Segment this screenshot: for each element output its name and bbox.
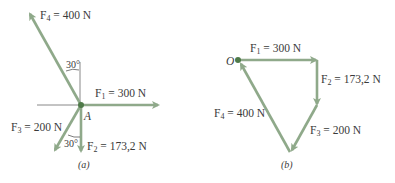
label-f4-a: F4 = 400 N <box>40 10 91 23</box>
point-o <box>235 57 241 63</box>
point-a-label: A <box>84 111 91 123</box>
label-f2-b: F2 = 173,2 N <box>321 74 381 87</box>
label-f1-b: F1 = 300 N <box>250 43 301 56</box>
panel-b <box>235 57 317 152</box>
label-f3-a: F3 = 200 N <box>11 122 62 135</box>
force-diagram <box>0 0 395 183</box>
label-f2-a: F2 = 173,2 N <box>87 141 147 154</box>
label-f4-b: F4 = 400 N <box>214 108 265 121</box>
angle-label-lower: 30° <box>64 139 78 149</box>
caption-b: (b) <box>281 160 293 170</box>
angle-label-upper: 30° <box>66 60 80 70</box>
label-f3-b: F3 = 200 N <box>310 125 361 138</box>
point-a <box>78 102 84 108</box>
point-o-label: O <box>226 56 234 68</box>
angle-arc-lower <box>68 135 80 137</box>
caption-a: (a) <box>78 160 90 170</box>
label-f1-a: F1 = 300 N <box>95 88 146 101</box>
